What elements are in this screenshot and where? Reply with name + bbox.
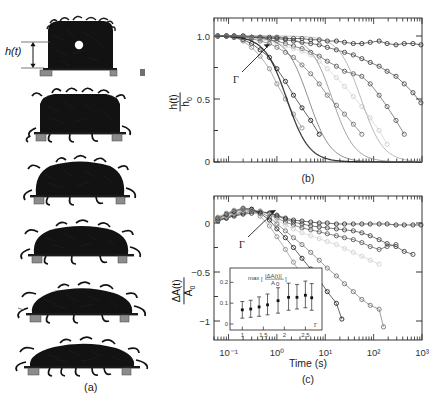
panel-b-label: (b)	[186, 172, 430, 184]
h-of-t-label: h(t)	[5, 45, 22, 57]
panel-c-gamma-label: Γ	[239, 239, 245, 250]
panel-b-ytick-one: 1.0	[197, 31, 210, 42]
panel-b-ytick-half: 0.5	[197, 94, 210, 105]
ant-aggregate-image-3	[0, 150, 180, 208]
inset-xtick-2: 2	[283, 332, 287, 338]
ant-aggregate-frame-1: h(t)	[0, 14, 180, 80]
series-line-G3	[218, 36, 404, 134]
series-markers-G6	[216, 34, 322, 136]
series-markers-G4	[216, 207, 382, 266]
panel-c-inset: 11.522.500.10.2 max [ |ΔA(t)| A 0 ] Γ	[220, 268, 322, 338]
series-line-G2	[218, 36, 421, 103]
fit-curve-fit1	[214, 36, 422, 162]
ant-aggregate-frame-3	[0, 150, 180, 208]
panel-b-gamma-annotation: Γ	[233, 44, 270, 85]
panel-c-ytick-neg-half: −0.5	[191, 267, 210, 278]
panel-c-ytick-0: 0	[205, 218, 210, 229]
svg-text:|ΔA(t)|: |ΔA(t)|	[265, 273, 282, 279]
inset-y-axis-label: max	[248, 275, 259, 281]
panel-c-plot: 0 −0.5 −1 10⁻¹10⁰10¹10²10³ Γ 11.522.500.…	[186, 190, 430, 360]
inset-xtick-0: 1	[241, 332, 245, 338]
panel-b-data-layer	[214, 34, 423, 162]
panel-c-label: (c)	[186, 373, 430, 385]
panel-c-ytick-neg-one: −1	[199, 316, 210, 327]
svg-text:A: A	[271, 280, 275, 286]
panel-c-x-axis-title: Time (s)	[186, 357, 430, 369]
inset-ytick-2: 0.2	[220, 279, 229, 285]
ant-aggregate-image-4	[0, 212, 180, 267]
ant-aggregate-frame-5	[0, 272, 180, 327]
panel-b-gamma-label: Γ	[233, 74, 239, 85]
ant-aggregate-frame-4	[0, 212, 180, 267]
ant-aggregate-image-5	[0, 272, 180, 327]
panel-a-photo-series: h(t)	[0, 0, 180, 399]
panel-c-svg: 0 −0.5 −1 10⁻¹10⁰10¹10²10³ Γ 11.522.500.…	[186, 190, 430, 360]
series-line-G4	[218, 36, 387, 144]
series-line-G4	[218, 209, 379, 264]
panel-b-plot: 0 0.5 1.0 Γ	[186, 10, 430, 175]
inset-x-axis-label: Γ	[314, 322, 317, 328]
panel-a-label: (a)	[84, 381, 97, 393]
figure-root: h(t)	[0, 0, 434, 399]
ant-aggregate-frame-6	[0, 328, 180, 380]
ant-aggregate-image-6	[0, 328, 180, 380]
ant-aggregate-image-1	[0, 14, 180, 80]
inset-xtick-1: 1.5	[259, 332, 268, 338]
inset-xtick-3: 2.5	[301, 332, 310, 338]
panel-b-svg: 0 0.5 1.0 Γ	[186, 10, 430, 175]
ant-aggregate-image-2	[0, 84, 180, 146]
inset-ytick-1: 0.1	[220, 300, 229, 306]
series-markers-G2	[216, 209, 415, 256]
series-markers-G7	[216, 34, 304, 130]
inset-ytick-0: 0	[225, 321, 229, 327]
series-markers-G5	[216, 34, 364, 136]
series-line-G1	[218, 212, 421, 225]
panel-b-ytick-0: 0	[205, 156, 210, 167]
ant-aggregate-frame-2	[0, 84, 180, 146]
